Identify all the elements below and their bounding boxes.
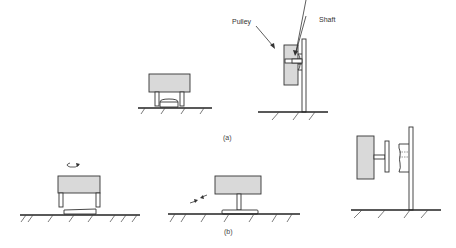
ground-hatch (170, 214, 292, 222)
leg-left (59, 193, 63, 207)
ground-hatch (21, 215, 137, 222)
pulley (399, 144, 410, 172)
stem (237, 194, 241, 210)
leg-right (96, 193, 100, 207)
leg-right (180, 92, 184, 106)
block (58, 176, 100, 193)
shaft (292, 59, 302, 63)
diagram-canvas: Pulley Shaft (a) (0, 0, 456, 248)
pulley-puck (160, 99, 178, 107)
shaft-label: Shaft (319, 16, 335, 23)
shaft (374, 155, 385, 159)
leg-left (155, 92, 159, 106)
ground-hatch (141, 108, 204, 114)
block (215, 176, 261, 194)
panel-a-left-assembly (138, 74, 212, 114)
base-plate (64, 209, 96, 214)
vertical-post (409, 127, 413, 210)
panel-b-middle-assembly (168, 176, 300, 222)
panel-a-caption: (a) (223, 134, 232, 142)
panel-a-right-assembly: Pulley Shaft (232, 0, 335, 120)
pulley-label: Pulley (232, 18, 252, 26)
pulley-leader-line (256, 26, 273, 46)
panel-b-caption: (b) (224, 228, 233, 236)
panel-b-right-assembly (351, 127, 441, 218)
ground-hatch (354, 210, 428, 218)
diagram-svg: Pulley Shaft (a) (0, 0, 456, 248)
block (149, 74, 190, 92)
vertical-post (302, 39, 306, 112)
block-side (357, 136, 374, 179)
panel-b-left-assembly (20, 163, 140, 222)
ground-hatch (272, 112, 315, 120)
flange (385, 141, 389, 172)
